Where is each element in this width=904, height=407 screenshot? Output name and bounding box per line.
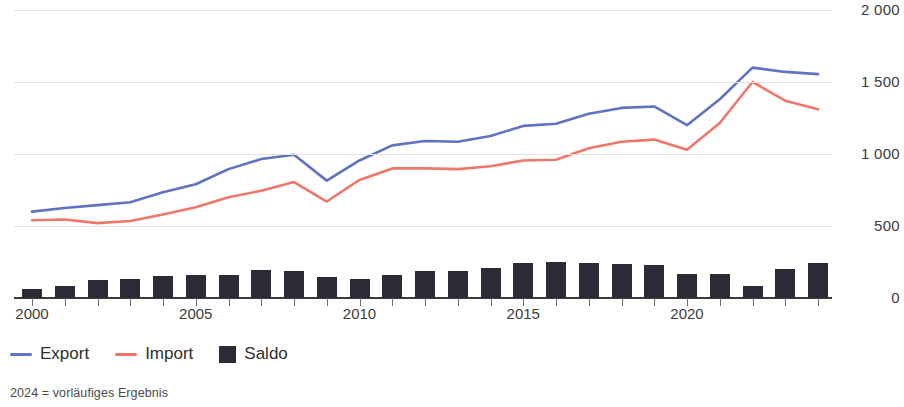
legend-item-import[interactable]: Import — [115, 344, 193, 364]
y-axis-tick-label: 1 500 — [840, 73, 900, 90]
x-axis-tick — [130, 298, 131, 306]
x-axis-tick — [163, 298, 164, 306]
saldo-bar — [382, 275, 402, 298]
plot-area — [14, 10, 832, 298]
x-axis-tick-label: 2015 — [507, 305, 540, 322]
saldo-bar — [219, 275, 239, 298]
gridline — [14, 154, 832, 155]
x-axis-tick — [753, 298, 754, 306]
saldo-bar — [120, 279, 140, 298]
saldo-bar — [612, 264, 632, 298]
x-axis-tick — [425, 298, 426, 306]
saldo-bar — [317, 277, 337, 298]
chart-footnote: 2024 = vorläufiges Ergebnis — [10, 386, 168, 400]
saldo-bar — [513, 263, 533, 298]
legend-line-icon — [115, 353, 137, 356]
saldo-bar — [579, 263, 599, 298]
y-axis-tick-label: 1 000 — [840, 145, 900, 162]
saldo-bar — [153, 276, 173, 298]
x-axis-tick-label: 2005 — [179, 305, 212, 322]
x-axis-tick — [294, 298, 295, 306]
x-axis-tick — [229, 298, 230, 306]
x-axis-tick — [818, 298, 819, 306]
saldo-bar — [22, 289, 42, 298]
saldo-bar — [743, 286, 763, 298]
saldo-bar — [186, 275, 206, 298]
x-axis-tick — [458, 298, 459, 306]
saldo-bar — [88, 280, 108, 298]
import-line — [32, 82, 818, 223]
saldo-bar — [415, 271, 435, 298]
gridline — [14, 10, 832, 11]
chart-legend: ExportImportSaldo — [10, 344, 288, 364]
y-axis-tick-label: 500 — [840, 217, 900, 234]
x-axis-tick — [556, 298, 557, 306]
saldo-bar — [644, 265, 664, 298]
saldo-bar — [677, 274, 697, 298]
saldo-bar — [350, 279, 370, 298]
legend-label: Export — [40, 344, 89, 364]
saldo-bar — [448, 271, 468, 298]
legend-label: Import — [145, 344, 193, 364]
saldo-bar — [775, 269, 795, 298]
saldo-bar — [808, 263, 828, 298]
saldo-bar — [710, 274, 730, 298]
legend-square-icon — [219, 346, 236, 363]
legend-label: Saldo — [244, 344, 287, 364]
x-axis-tick — [327, 298, 328, 306]
gridline — [14, 226, 832, 227]
x-axis-tick-label: 2020 — [670, 305, 703, 322]
x-axis-tick — [491, 298, 492, 306]
x-axis-tick — [392, 298, 393, 306]
chart-container: 05001 0001 5002 000 20002005201020152020… — [0, 0, 904, 407]
legend-item-export[interactable]: Export — [10, 344, 89, 364]
saldo-bar — [55, 286, 75, 298]
x-axis-tick — [720, 298, 721, 306]
gridline — [14, 82, 832, 83]
x-axis-tick — [65, 298, 66, 306]
saldo-bar — [481, 268, 501, 298]
x-axis-tick — [261, 298, 262, 306]
x-axis-tick — [98, 298, 99, 306]
saldo-bar — [284, 271, 304, 298]
y-axis-tick-label: 0 — [840, 289, 900, 306]
x-axis-tick — [785, 298, 786, 306]
x-axis-tick-label: 2000 — [15, 305, 48, 322]
saldo-bar — [251, 270, 271, 298]
legend-item-saldo[interactable]: Saldo — [219, 344, 287, 364]
y-axis-tick-label: 2 000 — [840, 1, 900, 18]
x-axis-tick — [622, 298, 623, 306]
x-axis-tick-label: 2010 — [343, 305, 376, 322]
x-axis-tick — [589, 298, 590, 306]
legend-line-icon — [10, 353, 32, 356]
saldo-bar — [546, 262, 566, 298]
x-axis-tick — [654, 298, 655, 306]
